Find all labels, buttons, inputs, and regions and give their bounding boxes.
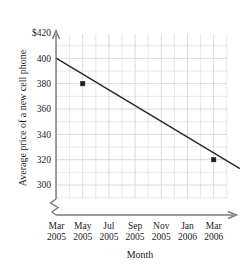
y-axis-title: Average price of a new cell phone bbox=[17, 49, 28, 186]
chart-container: $420400380360340320300 Mar2005May2005Jul… bbox=[0, 0, 248, 275]
x-tick-year: 2006 bbox=[178, 232, 197, 242]
x-axis-tick-label: Mar2005 bbox=[47, 221, 66, 242]
x-axis-tick-label: Nov2005 bbox=[152, 221, 171, 242]
x-tick-month: Jul bbox=[103, 221, 114, 231]
x-tick-month: Nov bbox=[153, 221, 170, 231]
x-tick-year: 2006 bbox=[204, 232, 223, 242]
x-tick-year: 2005 bbox=[126, 232, 145, 242]
x-tick-month: Mar bbox=[206, 221, 223, 231]
y-axis-tick-label: 300 bbox=[37, 180, 52, 190]
x-axis-tick-label: Sep2005 bbox=[126, 221, 145, 242]
y-axis-tick-label: $420 bbox=[32, 28, 51, 38]
x-tick-month: Jan bbox=[181, 221, 194, 231]
x-tick-year: 2005 bbox=[152, 232, 171, 242]
x-tick-month: May bbox=[74, 221, 92, 231]
x-axis-tick-label: May2005 bbox=[73, 221, 92, 242]
y-axis-tick-label: 340 bbox=[37, 130, 52, 140]
x-tick-month: Mar bbox=[49, 221, 66, 231]
x-tick-year: 2005 bbox=[47, 232, 66, 242]
y-axis-tick-label: 320 bbox=[37, 155, 52, 165]
x-axis-tick-label: Mar2006 bbox=[204, 221, 223, 242]
x-tick-year: 2005 bbox=[73, 232, 92, 242]
data-point-marker bbox=[212, 157, 216, 161]
data-point-marker bbox=[81, 81, 85, 85]
x-tick-year: 2005 bbox=[99, 232, 118, 242]
y-axis-tick-label: 380 bbox=[37, 79, 52, 89]
line-chart: $420400380360340320300 Mar2005May2005Jul… bbox=[0, 0, 248, 275]
x-tick-month: Sep bbox=[128, 221, 143, 231]
y-axis-tick-label: 400 bbox=[37, 54, 52, 64]
x-axis-title: Month bbox=[127, 249, 154, 260]
y-axis-tick-label: 360 bbox=[37, 104, 52, 114]
